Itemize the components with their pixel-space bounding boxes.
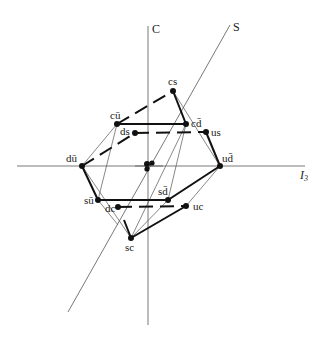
label-cd: cd̄ <box>191 117 202 129</box>
label-us: us <box>211 126 221 138</box>
label-cs: cs <box>168 75 177 87</box>
label-su: sū <box>84 194 94 206</box>
point-dc <box>115 204 121 210</box>
label-ds: ds <box>120 125 130 137</box>
point-us <box>203 129 209 135</box>
point-du <box>79 163 85 169</box>
weight-diagram: C S I3 cs cū cd̄ ds us dū ud̄ sū sd̄ dc … <box>0 0 328 343</box>
i3-axis-label: I3 <box>299 168 308 183</box>
point-center-2 <box>149 160 154 165</box>
point-sd <box>165 197 171 203</box>
point-cd <box>183 121 189 127</box>
label-dc: dc <box>105 202 116 214</box>
label-du: dū <box>66 152 78 164</box>
label-uc: uc <box>193 200 204 212</box>
point-center-1 <box>144 161 150 167</box>
point-center-3 <box>144 166 149 171</box>
label-ud: ud̄ <box>222 152 234 164</box>
label-sc: sc <box>125 241 134 253</box>
c-axis-label: C <box>152 22 160 36</box>
point-uc <box>183 203 189 209</box>
point-cs <box>170 88 176 94</box>
axes <box>17 25 305 325</box>
points <box>79 88 223 241</box>
label-cu: cū <box>110 109 121 121</box>
point-ds <box>132 130 138 136</box>
label-sd: sd̄ <box>158 185 168 197</box>
s-axis-label: S <box>233 20 240 34</box>
point-su <box>95 197 101 203</box>
